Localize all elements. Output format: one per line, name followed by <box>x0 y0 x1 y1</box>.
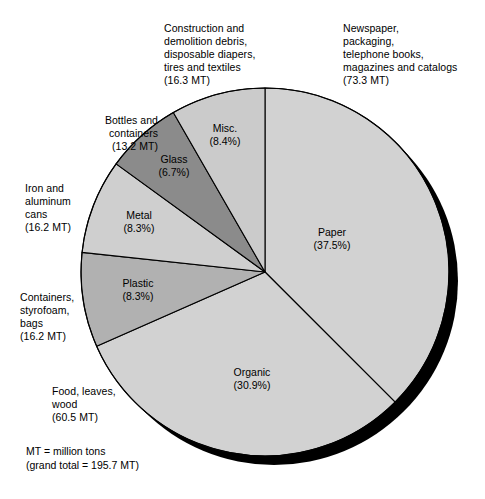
callout-organic: Food, leaves, wood (60.5 MT) <box>52 385 116 424</box>
callout-paper: Newspaper, packaging, telephone books, m… <box>343 22 457 87</box>
footnote-unit-note: MT = million tons (grand total = 195.7 M… <box>26 445 139 472</box>
chart-canvas: Construction and demolition debris, disp… <box>0 0 485 499</box>
callout-metal: Iron and aluminum cans (16.2 MT) <box>25 182 71 234</box>
callout-glass: Bottles and containers (13.2 MT) <box>62 114 158 153</box>
callout-misc: Construction and demolition debris, disp… <box>164 22 255 87</box>
callout-plastic: Containers, styrofoam, bags (16.2 MT) <box>20 291 74 343</box>
